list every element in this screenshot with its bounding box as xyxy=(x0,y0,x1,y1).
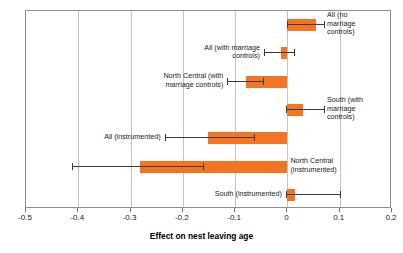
x-axis-tick-label: 0.1 xyxy=(319,213,359,222)
chart-figure: All (no marriage controls)All (with marr… xyxy=(0,0,403,253)
error-bar-cap xyxy=(264,49,265,56)
error-bar-cap xyxy=(165,134,166,141)
bar-series-label: North Central (instrumented) xyxy=(290,157,385,174)
error-bar xyxy=(286,109,324,110)
bar[interactable] xyxy=(287,19,315,31)
error-bar-cap xyxy=(340,191,341,198)
error-bar xyxy=(264,52,294,53)
x-axis-title: Effect on nest leaving age xyxy=(0,231,403,241)
bar-series-label: North Central (with marriage controls) xyxy=(103,72,223,89)
error-bar-cap xyxy=(324,106,325,113)
x-axis-tick-label: -0.5 xyxy=(5,213,45,222)
x-axis-tick xyxy=(234,208,235,212)
error-bar xyxy=(287,24,324,25)
x-axis-tick-label: -0.3 xyxy=(110,213,150,222)
x-axis-tick xyxy=(286,208,287,212)
bar-series-label: All (instrumented) xyxy=(41,133,161,142)
x-axis-tick xyxy=(391,208,392,212)
error-bar xyxy=(227,81,263,82)
error-bar-cap xyxy=(286,106,287,113)
error-bar-cap xyxy=(324,21,325,28)
error-bar xyxy=(165,137,255,138)
x-axis-tick-label: -0.1 xyxy=(214,213,254,222)
error-bar-cap xyxy=(286,191,287,198)
x-axis-tick xyxy=(25,208,26,212)
bar[interactable] xyxy=(287,104,303,116)
error-bar-cap xyxy=(203,163,204,170)
error-bar-cap xyxy=(294,49,295,56)
x-axis-tick xyxy=(130,208,131,212)
error-bar-cap xyxy=(287,21,288,28)
error-bar-cap xyxy=(227,78,228,85)
bar-series-label: South (instrumented) xyxy=(162,190,282,199)
bar-series-label: All (no marriage controls) xyxy=(327,11,403,37)
error-bar xyxy=(72,166,203,167)
x-axis-tick xyxy=(339,208,340,212)
bar[interactable] xyxy=(287,189,295,201)
bar[interactable] xyxy=(246,76,287,88)
x-axis-tick xyxy=(182,208,183,212)
error-bar-cap xyxy=(254,134,255,141)
error-bar xyxy=(286,194,340,195)
bar[interactable] xyxy=(208,132,287,144)
bar[interactable] xyxy=(140,161,287,173)
x-axis-tick-label: 0.2 xyxy=(371,213,403,222)
x-axis-tick-label: -0.4 xyxy=(57,213,97,222)
bar-series-label: All (with marriage controls) xyxy=(140,44,260,61)
x-axis-tick xyxy=(77,208,78,212)
error-bar-cap xyxy=(72,163,73,170)
bar-series-label: South (with marriage controls) xyxy=(327,96,403,122)
error-bar-cap xyxy=(263,78,264,85)
x-axis-tick-label: -0.2 xyxy=(162,213,202,222)
bar[interactable] xyxy=(281,47,287,59)
x-axis-tick-label: 0 xyxy=(266,213,306,222)
